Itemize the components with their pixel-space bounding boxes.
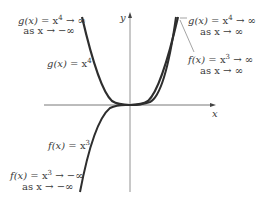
y-axis <box>128 12 132 192</box>
label-f-right-limit-cond: as x → ∞ <box>200 65 243 76</box>
label-f-right-limit: f(x) = x3 → ∞ <box>188 52 253 65</box>
label-f-left-limit-cond: as x → −∞ <box>22 181 73 192</box>
label-g-right-limit: g(x) = x4 → ∞ <box>188 13 256 26</box>
curve-f-x3 <box>80 17 176 192</box>
label-f-mid: f(x) = x3 <box>48 138 90 151</box>
label-g-right-limit-cond: as x → ∞ <box>200 26 243 37</box>
label-g-mid: g(x) = x4 <box>47 56 92 69</box>
label-g-left-limit-cond: as x → −∞ <box>22 25 76 36</box>
label-f-left-limit: f(x) = x3 → −∞ <box>10 168 83 181</box>
y-axis-label: y <box>120 12 126 23</box>
x-axis-label: x <box>212 108 218 119</box>
